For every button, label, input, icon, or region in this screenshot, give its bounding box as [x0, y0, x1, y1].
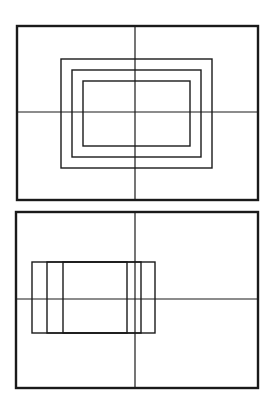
inner-rect-1 — [32, 262, 155, 333]
inner-rect-2 — [72, 70, 201, 157]
panel-frame — [17, 26, 258, 200]
top-panel — [17, 26, 258, 200]
panel-frame — [16, 212, 258, 388]
bottom-panel — [16, 212, 258, 388]
inner-rect-3 — [63, 262, 127, 333]
diagram-canvas — [0, 0, 276, 405]
inner-rect-3 — [83, 81, 190, 146]
